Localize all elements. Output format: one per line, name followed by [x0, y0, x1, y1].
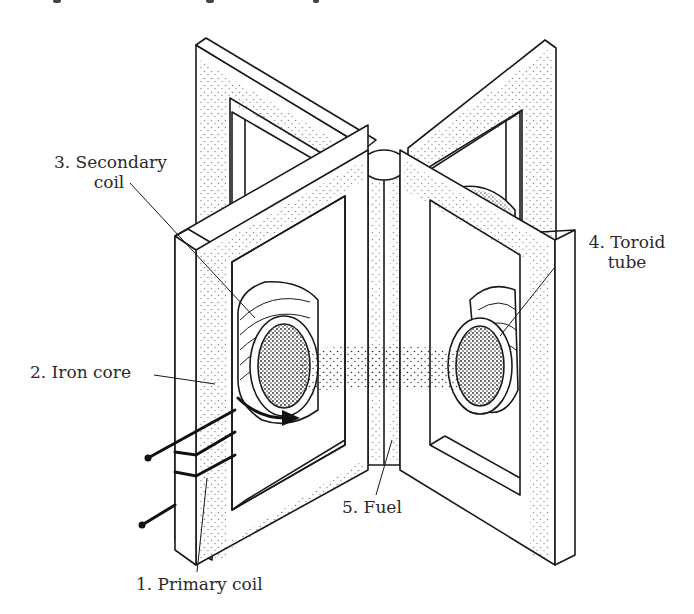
label-primary-coil: 1. Primary coil — [136, 574, 263, 594]
label-fuel: 5. Fuel — [342, 497, 402, 517]
fuel-plasma — [300, 346, 460, 392]
cropped-text-remnants — [53, 0, 319, 3]
label-iron-core: 2. Iron core — [30, 362, 131, 382]
label-toroid-tube: 4. Toroid tube — [582, 232, 672, 272]
label-secondary-coil: 3. Secondary coil — [54, 152, 164, 192]
reactor-diagram — [0, 0, 694, 614]
